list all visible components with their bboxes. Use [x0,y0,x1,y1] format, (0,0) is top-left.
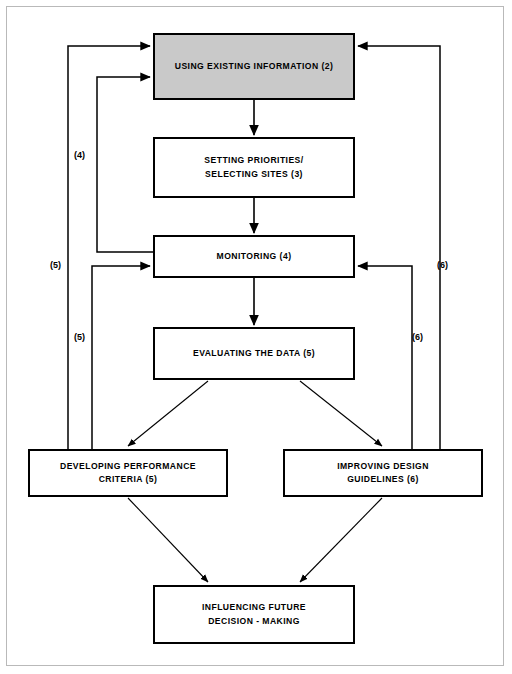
connector-developing-to-monitoring-5 [92,266,150,449]
connector-developing-to-using-5 [68,46,150,449]
edge-label-6-outer: (6) [437,260,448,270]
connector-improving-to-monitoring-6 [358,266,412,449]
connector-improving-to-influencing [300,498,382,582]
node-label-setting-priorities: SETTING PRIORITIES/ SELECTING SITES (3) [198,154,309,181]
connector-monitoring-to-using-4 [97,77,153,252]
node-using-existing-information[interactable]: USING EXISTING INFORMATION (2) [153,33,355,100]
connector-improving-to-using-6 [358,46,440,449]
node-label-developing-performance-criteria: DEVELOPING PERFORMANCE CRITERIA (5) [54,460,202,487]
node-label-influencing-future-decision-making: INFLUENCING FUTURE DECISION - MAKING [196,601,312,628]
node-improving-design-guidelines[interactable]: IMPROVING DESIGN GUIDELINES (6) [283,449,483,497]
node-label-using-existing-information: USING EXISTING INFORMATION (2) [169,60,339,73]
node-label-monitoring: MONITORING (4) [211,250,298,263]
node-influencing-future-decision-making[interactable]: INFLUENCING FUTURE DECISION - MAKING [153,585,355,644]
connector-evaluating-to-improving [300,381,382,446]
node-developing-performance-criteria[interactable]: DEVELOPING PERFORMANCE CRITERIA (5) [28,449,228,497]
node-label-improving-design-guidelines: IMPROVING DESIGN GUIDELINES (6) [331,460,435,487]
edge-label-5-inner: (5) [74,332,85,342]
node-setting-priorities[interactable]: SETTING PRIORITIES/ SELECTING SITES (3) [153,137,355,198]
node-label-evaluating-the-data: EVALUATING THE DATA (5) [187,347,321,360]
flowchart-page: USING EXISTING INFORMATION (2) SETTING P… [0,0,512,674]
edge-label-5-outer: (5) [50,260,61,270]
edge-label-4: (4) [74,150,85,160]
connector-evaluating-to-developing [128,381,208,446]
edge-label-6-inner: (6) [412,332,423,342]
connector-developing-to-influencing [128,498,208,582]
node-monitoring[interactable]: MONITORING (4) [153,235,355,278]
node-evaluating-the-data[interactable]: EVALUATING THE DATA (5) [153,327,355,380]
